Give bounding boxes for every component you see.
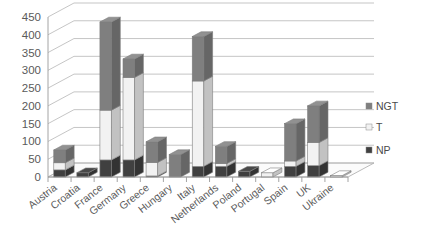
- bar-segment-ngt: [123, 59, 135, 77]
- bar-segment-ngt: [308, 106, 320, 143]
- legend: NGTTNP: [366, 100, 399, 156]
- bar-column: [215, 142, 235, 177]
- legend-swatch-ngt: [366, 103, 372, 109]
- bar-column: [192, 32, 212, 177]
- bar-column: [169, 150, 189, 177]
- bar-segment-ngt: [169, 155, 181, 177]
- bar-segment-ngt: [54, 150, 66, 163]
- bar-segment-np: [238, 171, 250, 177]
- bar-segment-t: [100, 110, 112, 160]
- bar-segment-np: [123, 160, 135, 177]
- stacked-bar-chart: 050100150200250300350400450 AustriaCroat…: [0, 0, 428, 246]
- bar-segment-t: [192, 81, 204, 166]
- bar-segment-np: [54, 170, 66, 177]
- bar-segment-np: [77, 173, 89, 177]
- y-axis-tick-label: 150: [22, 118, 41, 130]
- legend-swatch-np: [366, 147, 372, 153]
- gridline: [48, 3, 374, 17]
- bar-column: [123, 54, 143, 177]
- x-axis-tick-label: Spain: [261, 181, 290, 207]
- bar-segment-np: [192, 166, 204, 177]
- y-axis-tick-label: 50: [28, 153, 41, 165]
- bar-side-ngt: [319, 101, 328, 142]
- bar-segment-t: [123, 77, 135, 159]
- y-axis-tick-label: 0: [35, 171, 41, 183]
- bar-column: [54, 145, 74, 177]
- bar-side-ngt: [296, 119, 305, 161]
- bars-group: [54, 17, 351, 177]
- bar-side-t: [135, 73, 144, 160]
- bar-side-ngt: [204, 32, 213, 81]
- bar-segment-ngt: [285, 124, 297, 161]
- bar-segment-np: [215, 166, 227, 177]
- bar-segment-t: [146, 162, 158, 176]
- bar-side-ngt: [111, 17, 120, 110]
- bar-side-t: [204, 76, 213, 166]
- y-axis-tick-label: 300: [22, 64, 41, 76]
- bar-segment-ngt: [192, 37, 204, 81]
- legend-label-ngt: NGT: [376, 100, 399, 112]
- y-axis-tick-label: 400: [22, 29, 41, 41]
- bar-column: [285, 119, 305, 177]
- bar-segment-t: [215, 163, 227, 166]
- y-axis-tick-label: 200: [22, 100, 41, 112]
- legend-swatch-t: [366, 124, 372, 130]
- bar-column: [308, 101, 328, 177]
- bar-segment-t: [285, 161, 297, 166]
- y-axis-tick-label: 450: [22, 11, 41, 23]
- bar-segment-ngt: [215, 146, 227, 163]
- bar-segment-t: [261, 173, 273, 177]
- bar-segment-np: [100, 160, 112, 177]
- bar-side-t: [111, 105, 120, 160]
- bar-segment-t: [54, 163, 66, 170]
- bar-segment-np: [308, 166, 320, 177]
- y-axis-tick-label: 100: [22, 135, 41, 147]
- legend-label-np: NP: [376, 144, 391, 156]
- bar-segment-np: [285, 166, 297, 177]
- bar-column: [146, 137, 166, 177]
- y-axis-tick-label: 250: [22, 82, 41, 94]
- y-axis: 050100150200250300350400450: [22, 11, 48, 183]
- bar-segment-ngt: [100, 22, 112, 110]
- chart-container: 050100150200250300350400450 AustriaCroat…: [0, 0, 428, 246]
- bar-segment-t: [308, 143, 320, 166]
- bar-column: [100, 17, 120, 177]
- y-axis-tick-label: 350: [22, 47, 41, 59]
- x-axis: AustriaCroatiaFranceGermanyGreeceHungary…: [26, 177, 348, 225]
- bar-segment-ngt: [146, 142, 158, 163]
- legend-label-t: T: [376, 121, 383, 133]
